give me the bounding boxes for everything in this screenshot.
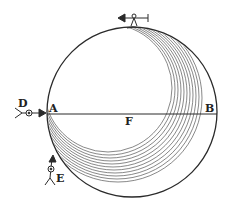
label-A: A bbox=[48, 102, 58, 115]
lit-region bbox=[44, 24, 168, 148]
label-F: F bbox=[125, 115, 133, 128]
globe-diagram: A B F D E bbox=[0, 0, 230, 206]
observer-E-icon bbox=[45, 155, 56, 185]
label-E: E bbox=[56, 172, 64, 185]
label-D: D bbox=[18, 97, 28, 110]
label-B: B bbox=[205, 102, 214, 115]
observer-top-icon bbox=[118, 14, 148, 28]
